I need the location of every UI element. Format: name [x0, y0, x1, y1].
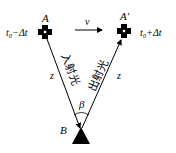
reflected-ray-label: 出射光: [85, 57, 111, 93]
point-a-marker-icon: [38, 25, 52, 39]
reflection-geometry-diagram: A t₀−Δt A′ t₀+Δt v z z β B 入射光 出射光: [0, 0, 176, 153]
incident-ray-label: 入射光: [58, 51, 83, 87]
right-distance-label: z: [116, 70, 121, 81]
angle-arc: [74, 113, 89, 116]
angle-beta-label: β: [78, 98, 85, 110]
point-a-time-label: t₀−Δt: [6, 27, 28, 38]
point-b-triangle-icon: [72, 127, 90, 144]
point-a-label: A: [41, 12, 49, 24]
point-a-prime-marker-icon: [117, 24, 131, 38]
velocity-label: v: [85, 16, 90, 27]
point-b-label: B: [60, 124, 67, 136]
left-distance-label: z: [49, 70, 54, 81]
point-a-prime-time-label: t₀+Δt: [140, 27, 162, 38]
point-a-prime-label: A′: [119, 10, 130, 22]
